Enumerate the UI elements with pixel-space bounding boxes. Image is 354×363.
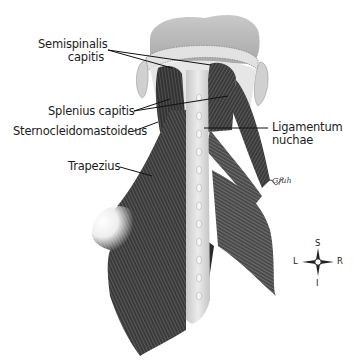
label-semispinalis-capitis: Semispinalis capitis <box>38 38 104 64</box>
artist-signature: Gfuh <box>272 176 292 185</box>
compass-label-inferior: I <box>316 278 319 288</box>
compass-arrow-up <box>316 248 320 260</box>
compass-rose <box>302 248 334 276</box>
compass-arrow-left <box>302 260 316 264</box>
compass-label-right: R <box>337 256 343 266</box>
label-splenius-capitis: Splenius capitis <box>48 105 135 118</box>
anatomy-figure: Semispinalis capitis Splenius capitis St… <box>0 0 354 363</box>
acromion-highlight <box>92 206 144 258</box>
spine-column <box>186 70 210 324</box>
right-ear <box>254 62 268 106</box>
compass-center <box>315 259 321 265</box>
label-ligamentum-nuchae: Ligamentum nuchae <box>272 121 343 147</box>
compass-arrow-down <box>316 264 320 276</box>
label-ligamentum-line2: nuchae <box>272 134 343 147</box>
label-semispinalis-line2: capitis <box>38 51 104 64</box>
compass-label-left: L <box>293 256 298 266</box>
left-ear <box>136 60 148 98</box>
compass-label-superior: S <box>315 238 320 248</box>
label-trapezius: Trapezius <box>68 160 120 173</box>
label-sternocleidomastoideus: Sternocleidomastoideus <box>13 125 147 138</box>
compass-arrow-right <box>320 260 334 264</box>
